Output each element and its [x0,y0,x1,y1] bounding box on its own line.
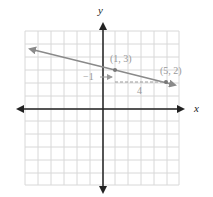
point-5-2 [164,80,168,84]
run-label: 4 [137,85,142,96]
rise-label: −1 [83,71,94,82]
point-1-3 [113,68,117,72]
axes [18,24,183,192]
point-5-2-label: (5, 2) [160,65,182,77]
coordinate-plane: (1, 3) (5, 2) −1 4 x y [0,0,213,197]
x-axis-label: x [193,102,199,114]
y-axis-label: y [97,4,103,16]
point-1-3-label: (1, 3) [110,53,132,65]
